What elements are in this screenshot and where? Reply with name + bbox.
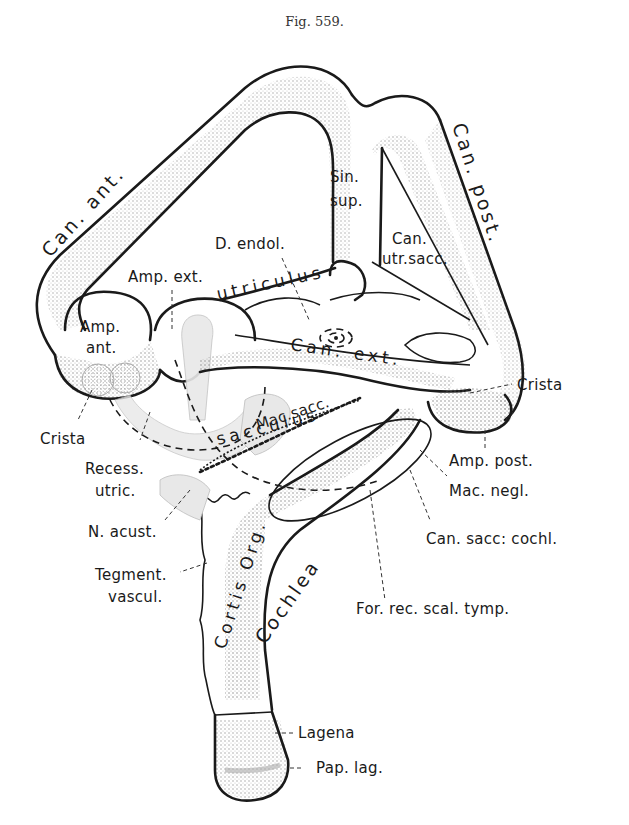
label-crista-right: Crista bbox=[517, 376, 563, 394]
ampulla-posterior bbox=[428, 388, 514, 432]
label-can-utrsacc-2: utr.sacc. bbox=[382, 250, 448, 268]
label-utriculus: utriculus bbox=[215, 262, 326, 304]
label-tegment-vascul-1: Tegment. bbox=[94, 566, 167, 584]
label-amp-ext: Amp. ext. bbox=[128, 268, 203, 286]
crus-commune-outline bbox=[352, 95, 440, 120]
label-sin-sup-1: Sin. bbox=[330, 168, 359, 186]
inner-ear-diagram: Can. ant. Can. post. Sin. sup. D. endol.… bbox=[0, 0, 629, 825]
label-can-utrsacc-1: Can. bbox=[392, 230, 427, 248]
label-n-acust: N. acust. bbox=[88, 523, 157, 541]
label-amp-ant-1: Amp. bbox=[80, 318, 120, 336]
label-tegment-vascul-2: vascul. bbox=[108, 588, 163, 606]
acoustic-nerve bbox=[160, 475, 210, 520]
label-recess-utric-2: utric. bbox=[95, 482, 136, 500]
label-d-endol: D. endol. bbox=[215, 235, 285, 253]
label-amp-post: Amp. post. bbox=[449, 452, 533, 470]
label-for-rec-scal-tymp: For. rec. scal. tymp. bbox=[356, 600, 509, 618]
label-mac-negl: Mac. negl. bbox=[449, 482, 529, 500]
label-amp-ant-2: ant. bbox=[86, 339, 117, 357]
label-lagena: Lagena bbox=[298, 724, 355, 742]
label-sin-sup-2: sup. bbox=[330, 192, 363, 210]
label-crista-left: Crista bbox=[40, 430, 86, 448]
label-pap-lag: Pap. lag. bbox=[316, 759, 383, 777]
label-can-sacc-cochl: Can. sacc: cochl. bbox=[426, 530, 557, 548]
label-recess-utric-1: Recess. bbox=[85, 460, 144, 478]
